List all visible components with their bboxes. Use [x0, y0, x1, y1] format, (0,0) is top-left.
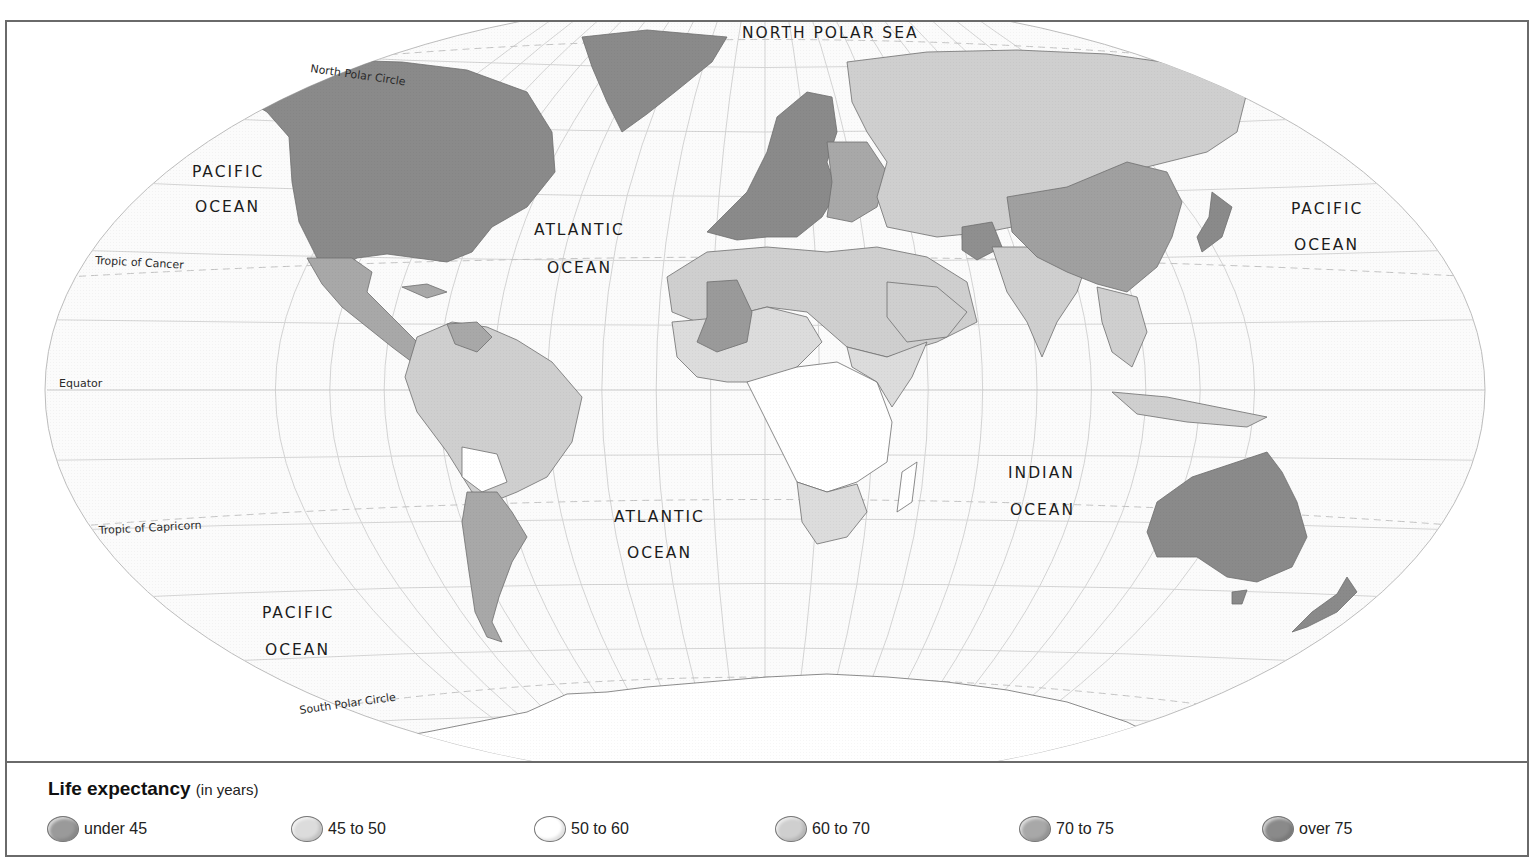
label-pacific-ocean-northwest-line1: PACIFIC — [192, 163, 264, 181]
legend-divider — [5, 761, 1529, 763]
map-canvas: NORTH POLAR SEA PACIFIC OCEAN ATLANTIC O… — [7, 22, 1527, 762]
label-pacific-ocean-south-line1: PACIFIC — [262, 604, 334, 622]
label-equator: Equator — [59, 377, 103, 390]
label-indian-ocean-line1: INDIAN — [1008, 464, 1075, 482]
swatch-under-45 — [47, 816, 79, 842]
legend-label: 70 to 75 — [1056, 820, 1114, 838]
swatch-45-to-50 — [291, 816, 323, 842]
world-map: NORTH POLAR SEA PACIFIC OCEAN ATLANTIC O… — [7, 22, 1527, 762]
legend-unit: (in years) — [196, 781, 259, 798]
legend-item-over-75: over 75 — [1262, 816, 1352, 842]
swatch-50-to-60 — [534, 816, 566, 842]
legend-item-70-to-75: 70 to 75 — [1019, 816, 1114, 842]
label-indian-ocean-line2: OCEAN — [1010, 501, 1075, 519]
legend-title-text: Life expectancy — [48, 778, 191, 799]
legend-item-50-to-60: 50 to 60 — [534, 816, 629, 842]
label-atlantic-ocean-south-line2: OCEAN — [627, 544, 692, 562]
legend-item-under-45: under 45 — [47, 816, 147, 842]
label-pacific-ocean-south-line2: OCEAN — [265, 641, 330, 659]
legend-label: 45 to 50 — [328, 820, 386, 838]
legend-label: over 75 — [1299, 820, 1352, 838]
legend-label: 50 to 60 — [571, 820, 629, 838]
label-atlantic-ocean-south-line1: ATLANTIC — [614, 508, 705, 526]
legend-title: Life expectancy (in years) — [48, 778, 258, 800]
swatch-60-to-70 — [775, 816, 807, 842]
legend-item-45-to-50: 45 to 50 — [291, 816, 386, 842]
legend: Life expectancy (in years) under 45 45 t… — [7, 764, 1527, 855]
swatch-70-to-75 — [1019, 816, 1051, 842]
label-pacific-ocean-east-line2: OCEAN — [1294, 236, 1359, 254]
legend-label: 60 to 70 — [812, 820, 870, 838]
label-pacific-ocean-east-line1: PACIFIC — [1291, 200, 1363, 218]
label-atlantic-ocean-north-line1: ATLANTIC — [534, 221, 625, 239]
legend-label: under 45 — [84, 820, 147, 838]
label-pacific-ocean-northwest-line2: OCEAN — [195, 198, 260, 216]
label-atlantic-ocean-north-line2: OCEAN — [547, 259, 612, 277]
swatch-over-75 — [1262, 816, 1294, 842]
legend-item-60-to-70: 60 to 70 — [775, 816, 870, 842]
label-north-polar-sea: NORTH POLAR SEA — [742, 24, 919, 42]
